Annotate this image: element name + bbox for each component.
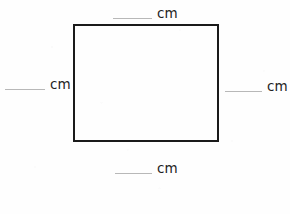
answer-blank-bottom[interactable] xyxy=(115,173,152,174)
measurement-worksheet: cm cm cm cm xyxy=(0,0,290,214)
unit-label-left: cm xyxy=(50,78,71,92)
answer-blank-left[interactable] xyxy=(5,89,45,90)
measurement-label-top: cm xyxy=(113,7,178,21)
answer-blank-right[interactable] xyxy=(225,91,262,92)
unit-label-right: cm xyxy=(267,80,288,94)
unit-label-top: cm xyxy=(157,7,178,21)
rectangle-shape xyxy=(73,24,219,142)
unit-label-bottom: cm xyxy=(157,162,178,176)
answer-blank-top[interactable] xyxy=(113,18,152,19)
measurement-label-left: cm xyxy=(5,78,71,92)
measurement-label-right: cm xyxy=(225,80,288,94)
measurement-label-bottom: cm xyxy=(115,162,178,176)
